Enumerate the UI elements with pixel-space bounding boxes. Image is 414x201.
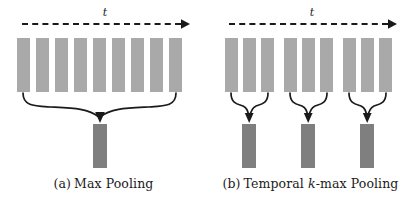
time-arrow-head-a [181,19,190,29]
panel-b-canvas: t [207,0,414,172]
output-bar [301,124,315,168]
panel-temporal-kmax-pooling: t [207,0,414,201]
input-bar [36,38,49,92]
input-bar [55,38,68,92]
time-arrow-b [229,19,397,29]
caption-prefix-b: Temporal [244,176,308,191]
input-bar [74,38,87,92]
panel-a-canvas: t [0,0,207,172]
caption-text-a: Max Pooling [74,176,153,191]
pooling-arrow-head-b1 [245,113,254,123]
input-bar [112,38,125,92]
input-bars-a [17,38,182,92]
time-arrow-head-b [388,19,397,29]
input-bar [284,38,297,92]
input-bar [150,38,163,92]
pooling-figure: t [0,0,414,201]
input-bar [17,38,30,92]
caption-suffix-b: -max Pooling [316,176,399,191]
output-bars-a [93,124,107,168]
caption-tag-b: (b) [223,176,241,191]
input-bar [343,38,356,92]
panel-max-pooling: t [0,0,207,201]
caption-panel-b: (b)Temporal k-max Pooling [207,176,414,191]
pooling-arrow-head-a [95,112,105,123]
input-bar [320,38,333,92]
input-bars-b [225,38,392,92]
brace-right-sweep-a [100,93,176,117]
caption-k-b: k [308,176,316,191]
pooling-arrow-head-b2 [304,113,313,123]
time-arrow-a [22,19,190,29]
input-bar [243,38,256,92]
input-bar [302,38,315,92]
input-bar [93,38,106,92]
pooling-arrow-heads-b [245,113,372,123]
axis-label-t-b: t [310,6,315,19]
output-bars-b [242,124,374,168]
output-bar [242,124,256,168]
caption-tag-a: (a) [54,176,72,191]
brace-left-sweep-a [23,93,99,117]
input-bar [131,38,144,92]
output-bar [360,124,374,168]
output-bar [93,124,107,168]
pooling-arrow-head-b3 [363,113,372,123]
axis-label-t-a: t [103,6,108,19]
input-bar [261,38,274,92]
input-bar [379,38,392,92]
input-bar [361,38,374,92]
caption-panel-a: (a)Max Pooling [0,176,207,191]
input-bar [225,38,238,92]
input-bar [169,38,182,92]
